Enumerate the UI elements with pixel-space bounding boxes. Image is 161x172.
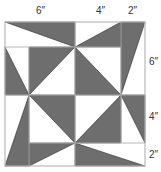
top-dimension-label: 6″ bbox=[36, 6, 45, 16]
quilt-block-diagram bbox=[0, 0, 161, 172]
right-dimension-label: 6″ bbox=[149, 57, 158, 67]
right-dimension-label: 4″ bbox=[149, 112, 158, 122]
top-dimension-label: 4″ bbox=[96, 6, 105, 16]
top-dimension-label: 2″ bbox=[128, 6, 137, 16]
right-dimension-label: 2″ bbox=[149, 150, 158, 160]
